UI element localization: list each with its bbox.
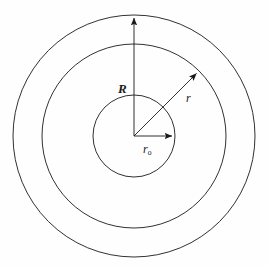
figure-canvas: R r ro [0,0,268,266]
radius-r0-label-subscript: o [148,148,152,157]
radius-R-label: R [118,82,127,95]
radius-r-label: r [186,92,191,104]
radius-r-label-text: r [186,91,191,105]
radius-r0-label: ro [143,143,152,157]
radius-R-label-text: R [118,81,127,96]
concentric-circles-svg [0,0,268,266]
